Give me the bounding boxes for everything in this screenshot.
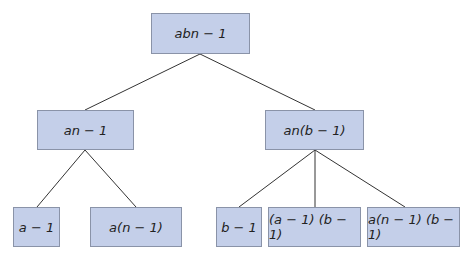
node-label: abn − 1 xyxy=(175,26,227,41)
node-rr: a(n − 1) (b − 1) xyxy=(367,207,460,247)
node-rm: (a − 1) (b − 1) xyxy=(268,207,361,247)
edge-right-rr xyxy=(315,150,405,207)
node-label: b − 1 xyxy=(221,220,257,235)
node-lr: a(n − 1) xyxy=(90,207,182,247)
edge-root-right xyxy=(200,54,315,110)
node-label: an − 1 xyxy=(64,123,108,138)
node-label: a(n − 1) xyxy=(109,220,163,235)
node-root: abn − 1 xyxy=(151,13,250,54)
node-label: a − 1 xyxy=(19,220,54,235)
node-ll: a − 1 xyxy=(13,207,60,247)
node-rl: b − 1 xyxy=(216,207,262,247)
node-left: an − 1 xyxy=(37,110,134,150)
node-label: an(b − 1) xyxy=(283,123,345,138)
node-right: an(b − 1) xyxy=(265,110,364,150)
edge-root-left xyxy=(85,54,200,110)
node-label: (a − 1) (b − 1) xyxy=(269,212,360,242)
edge-left-lr xyxy=(85,150,136,207)
node-label: a(n − 1) (b − 1) xyxy=(368,212,459,242)
edge-left-ll xyxy=(37,150,85,207)
edge-right-rl xyxy=(239,150,315,207)
